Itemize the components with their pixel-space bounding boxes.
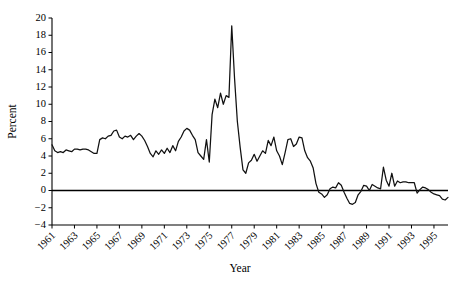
y-tick-label: 12	[36, 81, 47, 92]
x-tick-label: 1995	[417, 230, 440, 253]
y-tick-label: 20	[36, 12, 47, 23]
y-tick-label: 4	[41, 150, 47, 161]
y-axis-tick-labels: −4−202468101214161820	[35, 12, 47, 230]
y-tick-label: 14	[36, 64, 47, 75]
y-tick-label: 18	[36, 29, 47, 40]
y-axis-title: Percent	[6, 103, 18, 138]
x-tick-label: 1969	[125, 230, 148, 253]
x-tick-label: 1967	[102, 230, 125, 253]
y-tick-label: 8	[41, 115, 46, 126]
x-tick-label: 1981	[259, 230, 282, 253]
y-tick-label: −4	[35, 219, 47, 230]
x-tick-label: 1991	[372, 230, 395, 253]
y-tick-label: −2	[35, 202, 46, 213]
line-chart-canvas: −4−202468101214161820 196119631965196719…	[0, 0, 462, 283]
x-tick-label: 1987	[327, 230, 350, 253]
x-tick-label: 1989	[349, 230, 372, 253]
x-tick-label: 1963	[57, 230, 80, 253]
x-tick-label: 1973	[170, 230, 193, 253]
chart-figure: −4−202468101214161820 196119631965196719…	[0, 0, 462, 283]
x-tick-label: 1977	[215, 230, 238, 253]
y-tick-label: 10	[36, 98, 47, 109]
x-tick-label: 1993	[394, 230, 417, 253]
x-tick-label: 1961	[35, 230, 58, 253]
x-axis-title: Year	[229, 262, 250, 274]
series-line-percent	[52, 26, 448, 205]
x-tick-label: 1983	[282, 230, 305, 253]
x-tick-label: 1985	[304, 230, 327, 253]
x-axis-tick-labels: 1961196319651967196919711973197519771979…	[35, 230, 440, 253]
x-tick-label: 1979	[237, 230, 260, 253]
y-tick-label: 0	[41, 184, 46, 195]
x-tick-label: 1965	[80, 230, 103, 253]
y-tick-label: 16	[36, 46, 47, 57]
y-tick-label: 2	[41, 167, 46, 178]
y-tick-label: 6	[41, 133, 46, 144]
x-tick-label: 1971	[147, 230, 170, 253]
x-tick-label: 1975	[192, 230, 215, 253]
